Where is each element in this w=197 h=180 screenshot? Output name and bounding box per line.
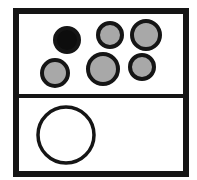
- gray-dot-icon: [130, 55, 154, 79]
- white-circle-icon: [38, 107, 94, 163]
- gray-dot-icon: [132, 21, 160, 49]
- gray-dot-icon: [98, 23, 122, 47]
- diagram-canvas: [0, 0, 197, 180]
- black-dot-icon: [55, 28, 79, 52]
- bottom-panel: [38, 107, 94, 163]
- gray-dot-icon: [42, 60, 68, 86]
- gray-dot-icon: [88, 54, 118, 84]
